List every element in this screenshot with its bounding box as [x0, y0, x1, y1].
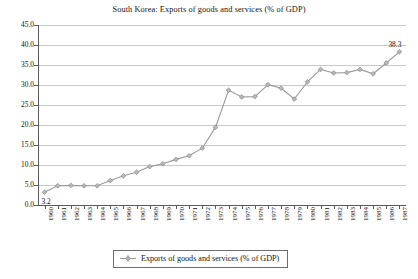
x-tick-mark: [307, 205, 308, 209]
x-tick-mark: [58, 205, 59, 209]
data-point-marker: [95, 183, 100, 188]
data-point-label: 38.3: [388, 41, 401, 49]
x-tick-mark: [242, 205, 243, 209]
legend-label-exports: Exports of goods and services (% of GDP): [141, 253, 279, 264]
x-tick-mark: [71, 205, 72, 209]
legend-diamond-icon: [120, 254, 136, 263]
data-point-marker: [160, 161, 165, 166]
data-point-marker: [331, 71, 336, 76]
chart-legend: Exports of goods and services (% of GDP): [113, 250, 288, 268]
data-point-marker: [108, 178, 113, 183]
data-point-marker: [134, 170, 139, 175]
data-point-marker: [42, 190, 47, 195]
data-point-marker: [187, 153, 192, 158]
x-tick-mark: [202, 205, 203, 209]
x-tick-mark: [229, 205, 230, 209]
data-point-marker: [344, 70, 349, 75]
data-point-marker: [121, 173, 126, 178]
data-point-marker: [55, 183, 60, 188]
data-point-marker: [68, 183, 73, 188]
x-tick-mark: [176, 205, 177, 209]
chart-container: South Korea: Exports of goods and servic…: [0, 0, 418, 279]
x-tick-mark: [215, 205, 216, 209]
x-tick-mark: [347, 205, 348, 209]
data-point-marker: [147, 164, 152, 169]
x-tick-mark: [84, 205, 85, 209]
x-tick-mark: [110, 205, 111, 209]
x-tick-mark: [321, 205, 322, 209]
x-tick-mark: [294, 205, 295, 209]
x-tick-mark: [189, 205, 190, 209]
x-tick-mark: [360, 205, 361, 209]
data-point-marker: [174, 157, 179, 162]
x-tick-mark: [386, 205, 387, 209]
data-point-marker: [82, 183, 87, 188]
x-tick-mark: [334, 205, 335, 209]
x-tick-mark: [137, 205, 138, 209]
x-tick-mark: [281, 205, 282, 209]
x-tick-mark: [150, 205, 151, 209]
data-point-label: 3.2: [42, 198, 51, 206]
x-tick-mark: [163, 205, 164, 209]
data-point-marker: [226, 88, 231, 93]
series-line-exports: [0, 0, 418, 279]
x-tick-mark: [97, 205, 98, 209]
data-point-marker: [358, 67, 363, 72]
x-tick-mark: [123, 205, 124, 209]
x-tick-mark: [45, 205, 46, 209]
x-tick-mark: [373, 205, 374, 209]
x-tick-mark: [399, 205, 400, 209]
data-point-marker: [239, 95, 244, 100]
x-tick-mark: [255, 205, 256, 209]
x-tick-mark: [268, 205, 269, 209]
